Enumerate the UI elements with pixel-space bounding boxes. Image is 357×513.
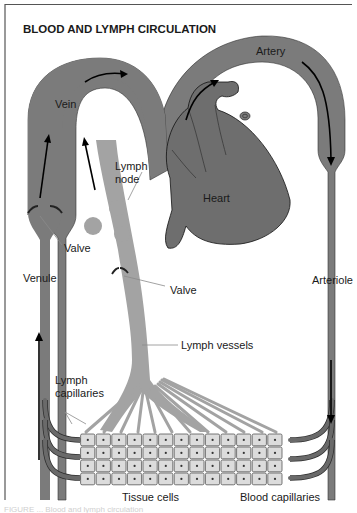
- cell-nucleus: [227, 452, 229, 454]
- label-tissue-cells: Tissue cells: [122, 491, 180, 503]
- cell-nucleus: [102, 465, 104, 467]
- cell-nucleus: [118, 478, 120, 480]
- cell-nucleus: [180, 452, 182, 454]
- cell-nucleus: [118, 439, 120, 441]
- label-venule: Venule: [23, 272, 57, 284]
- cell-nucleus: [134, 439, 136, 441]
- figure-caption: FIGURE ... Blood and lymph circulation: [4, 505, 143, 513]
- cell-nucleus: [102, 452, 104, 454]
- cell-nucleus: [258, 465, 260, 467]
- cell-nucleus: [243, 478, 245, 480]
- label-arteriole: Arteriole: [312, 274, 353, 286]
- cell-nucleus: [87, 478, 89, 480]
- cell-nucleus: [274, 478, 276, 480]
- cell-nucleus: [180, 465, 182, 467]
- cell-nucleus: [180, 478, 182, 480]
- cell-nucleus: [87, 452, 89, 454]
- cell-nucleus: [227, 478, 229, 480]
- cell-nucleus: [134, 465, 136, 467]
- cell-nucleus: [196, 478, 198, 480]
- cell-nucleus: [87, 465, 89, 467]
- label-lymph-capillaries-line2: capillaries: [55, 387, 104, 399]
- cell-nucleus: [243, 465, 245, 467]
- cell-nucleus: [149, 452, 151, 454]
- cell-nucleus: [134, 452, 136, 454]
- cell-nucleus: [274, 439, 276, 441]
- cell-nucleus: [134, 478, 136, 480]
- cell-nucleus: [149, 478, 151, 480]
- cell-nucleus: [149, 465, 151, 467]
- artery: [158, 36, 345, 500]
- cell-nucleus: [165, 452, 167, 454]
- blood-lymph-circulation-diagram: BLOOD AND LYMPH CIRCULATION: [0, 0, 357, 513]
- cell-nucleus: [87, 439, 89, 441]
- label-heart: Heart: [203, 192, 230, 204]
- cell-nucleus: [165, 439, 167, 441]
- cell-nucleus: [227, 465, 229, 467]
- tissue-cell-grid: [81, 434, 282, 485]
- label-lymph-node-line2: node: [115, 173, 139, 185]
- label-valve-venule: Valve: [64, 242, 91, 254]
- cell-nucleus: [180, 439, 182, 441]
- cell-nucleus: [165, 465, 167, 467]
- cell-nucleus: [212, 439, 214, 441]
- cell-nucleus: [274, 452, 276, 454]
- cell-nucleus: [196, 439, 198, 441]
- label-artery: Artery: [256, 45, 286, 57]
- cell-nucleus: [274, 465, 276, 467]
- cell-nucleus: [102, 439, 104, 441]
- lymph-node-lobe-right: [114, 226, 130, 242]
- cell-nucleus: [212, 452, 214, 454]
- label-lymph-capillaries-line1: Lymph: [55, 374, 88, 386]
- label-valve-lymph: Valve: [170, 284, 197, 296]
- cell-nucleus: [196, 465, 198, 467]
- cell-nucleus: [102, 478, 104, 480]
- label-lymph-vessels: Lymph vessels: [181, 339, 254, 351]
- cell-nucleus: [258, 439, 260, 441]
- cell-nucleus: [212, 478, 214, 480]
- aorta-opening: [240, 112, 250, 120]
- cell-nucleus: [258, 452, 260, 454]
- cell-nucleus: [149, 439, 151, 441]
- lymph-node-lobe-upper: [109, 200, 125, 216]
- cell-nucleus: [118, 452, 120, 454]
- cell-nucleus: [196, 452, 198, 454]
- cell-nucleus: [165, 478, 167, 480]
- cell-nucleus: [212, 465, 214, 467]
- cell-nucleus: [258, 478, 260, 480]
- cell-nucleus: [227, 439, 229, 441]
- label-lymph-node-line1: Lymph: [115, 160, 148, 172]
- lymph-node-lobe-left: [84, 217, 102, 235]
- cell-nucleus: [243, 439, 245, 441]
- cell-nucleus: [243, 452, 245, 454]
- diagram-title: BLOOD AND LYMPH CIRCULATION: [23, 23, 216, 35]
- cell-nucleus: [118, 465, 120, 467]
- label-vein: Vein: [55, 98, 76, 110]
- label-blood-capillaries: Blood capillaries: [240, 491, 321, 503]
